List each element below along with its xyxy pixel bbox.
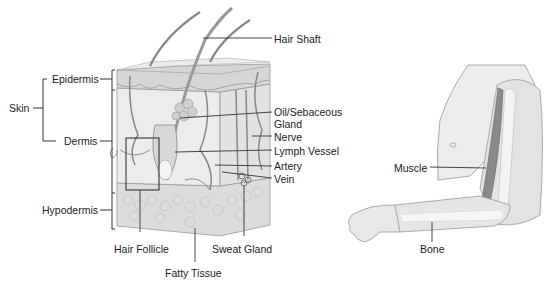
epidermis-label: Epidermis [52,73,99,85]
sweat-gland-label: Sweat Gland [212,243,272,255]
skin-label: Skin [9,102,29,114]
vein-label: Vein [274,173,294,185]
lymph-vessel-label: Lymph Vessel [274,145,339,157]
muscle-label: Muscle [394,162,427,174]
artery-label: Artery [274,160,302,172]
oil-gland-label-line1: Oil/Sebaceous [274,106,342,118]
nerve-label: Nerve [274,131,302,143]
hair-follicle-label: Hair Follicle [114,243,169,255]
dermis-label: Dermis [64,135,97,147]
hypodermis-label: Hypodermis [42,204,98,216]
fatty-tissue-label: Fatty Tissue [165,267,222,279]
hair-shaft-label: Hair Shaft [274,33,321,45]
bone-label: Bone [420,243,445,255]
oil-gland-label-line2: Gland [274,118,302,130]
anatomy-figure: Skin Epidermis Dermis Hypodermis Hair Sh… [0,0,550,286]
